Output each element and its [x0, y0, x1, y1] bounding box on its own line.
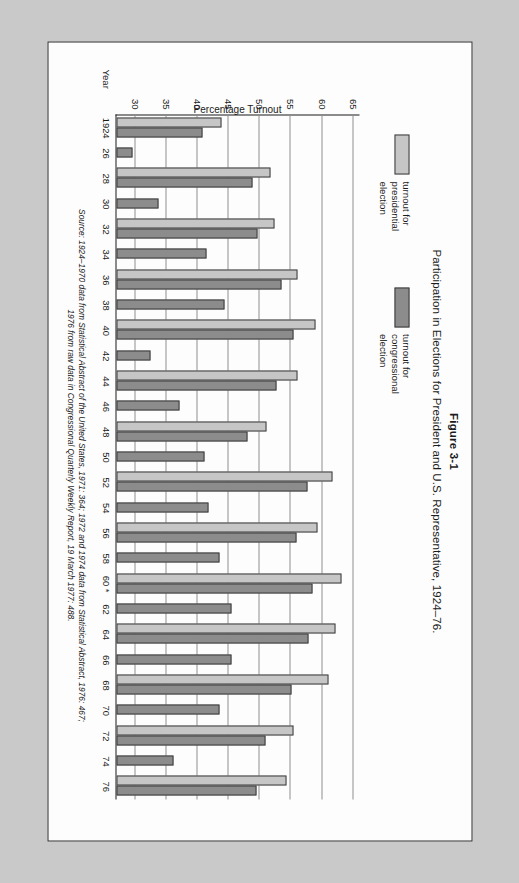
y-tick-label-40: 40 — [192, 99, 203, 110]
bar-presidential — [116, 269, 297, 279]
x-tick-label: 70 — [100, 706, 111, 716]
x-tick-label: 48 — [100, 427, 111, 437]
bar-group: 44 — [116, 369, 359, 394]
bar-congressional — [116, 228, 257, 238]
rotated-figure-wrapper: Figure 3-1 Participation in Elections fo… — [47, 42, 472, 842]
y-tick-label-55: 55 — [285, 99, 296, 110]
figure-page: Figure 3-1 Participation in Elections fo… — [0, 0, 519, 883]
legend-item-presidential: turnout for presidential election — [377, 135, 411, 232]
source-line-1: Source: 1924–1970 data from Statistical … — [75, 115, 86, 817]
bar-group: 26 — [116, 141, 359, 166]
x-tick-label: 42 — [100, 351, 111, 361]
x-tick-label: 44 — [100, 376, 111, 386]
bar-congressional — [116, 755, 173, 765]
plot-area: Percentage Turnout 3035404550556065 1924… — [115, 115, 359, 800]
figure-card: Figure 3-1 Participation in Elections fo… — [47, 42, 472, 842]
bar-presidential — [116, 320, 315, 330]
bar-congressional — [116, 401, 179, 411]
bar-group: 72 — [116, 724, 359, 749]
bar-congressional — [116, 249, 206, 259]
x-tick-label: 50 — [100, 452, 111, 462]
bar-congressional — [116, 583, 312, 593]
bar-group: 74 — [116, 749, 359, 774]
bar-congressional — [116, 735, 265, 745]
bar-congressional — [116, 502, 208, 512]
bar-congressional — [116, 532, 296, 542]
bar-group: 56 — [116, 521, 359, 546]
x-tick-label: 66 — [100, 655, 111, 665]
bar-group: 40 — [116, 318, 359, 343]
legend-swatch-congressional-icon — [394, 287, 409, 327]
x-tick-label: 56 — [100, 528, 111, 538]
bar-group: 42 — [116, 344, 359, 369]
bar-group: 32 — [116, 217, 359, 242]
x-tick-label: 30 — [100, 199, 111, 209]
bar-congressional — [116, 127, 202, 137]
bar-congressional — [116, 482, 307, 492]
source-note: Source: 1924–1970 data from Statistical … — [65, 115, 86, 817]
y-tick-label-35: 35 — [160, 99, 171, 110]
bar-group: 52 — [116, 470, 359, 495]
x-tick-label: 58 — [100, 554, 111, 564]
bar-congressional — [116, 279, 281, 289]
bar-congressional — [116, 350, 150, 360]
y-tick-label-65: 65 — [347, 99, 358, 110]
chart-legend: turnout for presidential election turnou… — [377, 135, 411, 394]
x-tick-label: 62 — [100, 604, 111, 614]
x-tick-label: 74 — [100, 756, 111, 766]
bar-group: 34 — [116, 242, 359, 267]
x-tick-label: 36 — [100, 275, 111, 285]
figure-title: Participation in Elections for President… — [430, 43, 442, 841]
bar-congressional — [116, 198, 158, 208]
x-tick-label: 64 — [100, 630, 111, 640]
x-tick-label: 60 * — [100, 576, 111, 593]
x-tick-label: 54 — [100, 503, 111, 513]
bar-group: 30 — [116, 192, 359, 217]
bar-group: 48 — [116, 420, 359, 445]
x-tick-label: 28 — [100, 174, 111, 184]
y-tick-label-60: 60 — [316, 99, 327, 110]
source-line-2: 1976 from raw data in Congressional Quar… — [65, 115, 76, 817]
x-tick-label: 52 — [100, 478, 111, 488]
bar-group: 1924 — [116, 116, 359, 141]
bar-congressional — [116, 634, 308, 644]
bar-series-layer: 1924262830323436384042444648505254565860… — [116, 116, 359, 800]
bar-congressional — [116, 553, 219, 563]
bar-group: 76 — [116, 774, 359, 799]
bar-congressional — [116, 786, 256, 796]
x-axis-title: Year — [100, 70, 111, 89]
bar-presidential — [116, 573, 341, 583]
y-tick-label-50: 50 — [254, 99, 265, 110]
bar-congressional — [116, 147, 132, 157]
bar-group: 70 — [116, 698, 359, 723]
bar-congressional — [116, 299, 224, 309]
bar-presidential — [116, 624, 335, 634]
bar-group: 54 — [116, 496, 359, 521]
bar-group: 50 — [116, 445, 359, 470]
bar-group: 38 — [116, 293, 359, 318]
bar-congressional — [116, 603, 231, 613]
legend-item-congressional: turnout for congressional election — [377, 287, 411, 394]
x-tick-label: 72 — [100, 731, 111, 741]
x-tick-label: 34 — [100, 250, 111, 260]
bar-congressional — [116, 451, 204, 461]
x-tick-label: 38 — [100, 300, 111, 310]
x-tick-label: 26 — [100, 148, 111, 158]
figure-label: Figure 3-1 — [447, 43, 459, 841]
bar-presidential — [116, 522, 317, 532]
bar-group: 60 * — [116, 572, 359, 597]
bar-congressional — [116, 431, 247, 441]
bar-congressional — [116, 705, 219, 715]
bar-presidential — [116, 421, 266, 431]
y-tick-label-45: 45 — [223, 99, 234, 110]
x-tick-label: 40 — [100, 326, 111, 336]
legend-label-presidential: turnout for presidential election — [377, 182, 411, 232]
bar-congressional — [116, 380, 276, 390]
bar-presidential — [116, 472, 332, 482]
bar-group: 46 — [116, 394, 359, 419]
x-tick-label: 32 — [100, 224, 111, 234]
bar-presidential — [116, 776, 286, 786]
bar-presidential — [116, 370, 297, 380]
bar-group: 66 — [116, 648, 359, 673]
bar-presidential — [116, 674, 328, 684]
